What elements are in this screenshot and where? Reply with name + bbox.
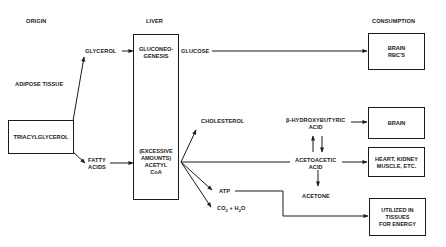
brain-box: BRAIN [368, 107, 425, 139]
header-consumption: CONSUMPTION [372, 18, 415, 25]
arrow-tag-to-glycerol [73, 57, 84, 121]
heart-kidney-label: HEART, KIDNEY MUSCLE, ETC. [369, 156, 424, 170]
triacylglycerol-box: TRIACYLGLYCEROL [8, 120, 74, 154]
brain-rbc-box: BRAIN RBC'S [368, 33, 425, 70]
utilized-energy-label: UTILIZED IN TISSUES FOR ENERGY [370, 207, 425, 228]
acetoacetic-acid-label: ACETOACETIC ACID [295, 157, 336, 171]
header-origin: ORIGIN [26, 18, 47, 25]
arrow-to-cholesterol [181, 130, 196, 162]
arrow-tag-to-fatty-acids [73, 152, 85, 163]
adipose-tissue-label: ADIPOSE TISSUE [15, 81, 63, 88]
gluconeogenesis-label: GLUCONEO- GENESIS [134, 46, 178, 60]
fatty-acids-label: FATTY ACIDS [88, 157, 106, 171]
metabolism-diagram: ORIGIN LIVER CONSUMPTION ADIPOSE TISSUE … [0, 0, 446, 247]
acetone-label: ACETONE [302, 193, 330, 200]
triacylglycerol-label: TRIACYLGLYCEROL [9, 134, 73, 141]
brain-rbc-label: BRAIN RBC'S [369, 45, 424, 59]
liver-box: GLUCONEO- GENESIS (EXCESSIVE AMOUNTS) AC… [133, 34, 179, 200]
glucose-label: GLUCOSE [181, 48, 209, 55]
co2-h2o-label: CO2 + H2O [217, 205, 246, 214]
atp-label: ATP [219, 188, 230, 195]
brain-label: BRAIN [369, 120, 424, 127]
utilized-energy-box: UTILIZED IN TISSUES FOR ENERGY [369, 198, 426, 236]
beta-hydroxybutyric-acid-label: β-HYDROXYBUTYRIC ACID [286, 117, 345, 131]
heart-kidney-box: HEART, KIDNEY MUSCLE, ETC. [368, 147, 425, 177]
glycerol-label: GLYCEROL [85, 48, 116, 55]
acetyl-coa-label: (EXCESSIVE AMOUNTS) ACETYL CoA [134, 148, 178, 176]
cholesterol-label: CHOLESTEROL [201, 118, 244, 125]
header-liver: LIVER [146, 18, 163, 25]
